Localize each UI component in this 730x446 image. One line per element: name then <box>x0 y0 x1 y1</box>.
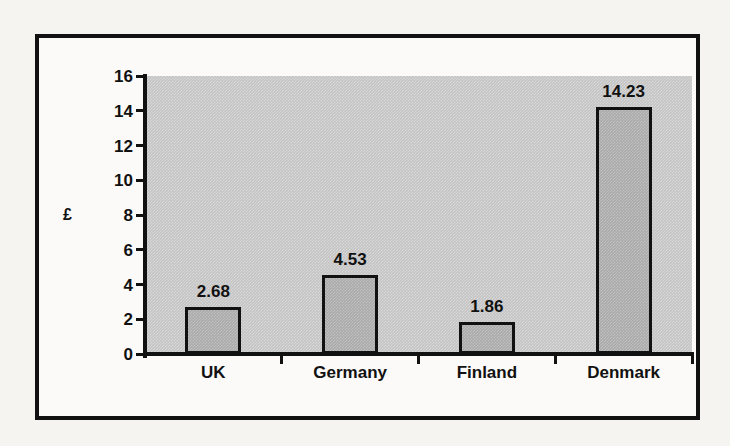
y-axis-tick-label: 6 <box>93 242 133 259</box>
x-axis-tick <box>691 355 694 364</box>
category-label-uk: UK <box>143 364 283 381</box>
bar-texture <box>462 325 512 351</box>
value-label-finland: 1.86 <box>437 298 537 315</box>
y-axis-tick-label: 12 <box>93 138 133 155</box>
value-label-germany: 4.53 <box>300 251 400 268</box>
bar-denmark[interactable] <box>596 107 652 354</box>
y-axis-tick-label: 10 <box>93 172 133 189</box>
y-axis-tick <box>136 318 144 321</box>
category-label-finland: Finland <box>417 364 557 381</box>
category-label-denmark: Denmark <box>554 364 694 381</box>
y-axis-tick <box>136 283 144 286</box>
x-axis-tick <box>280 355 283 364</box>
value-label-denmark: 14.23 <box>574 83 674 100</box>
bar-germany[interactable] <box>322 275 378 354</box>
y-axis-tick-label: 16 <box>93 68 133 85</box>
y-axis-tick <box>136 144 144 147</box>
y-axis-tick-label: 14 <box>93 103 133 120</box>
bar-texture <box>599 110 649 351</box>
bar-texture <box>325 278 375 351</box>
x-axis-tick <box>417 355 420 364</box>
y-axis-tick <box>136 214 144 217</box>
y-axis-title: £ <box>63 207 72 223</box>
bar-texture <box>188 310 238 351</box>
x-axis-tick <box>554 355 557 364</box>
y-axis-tick <box>136 75 144 78</box>
y-axis-tick <box>136 109 144 112</box>
bar-uk[interactable] <box>185 307 241 354</box>
y-axis-tick <box>136 353 144 356</box>
y-axis-tick <box>136 179 144 182</box>
y-axis-tick-label: 8 <box>93 207 133 224</box>
chart-figure-frame: 1614121086420 £ 2.684.531.8614.23 UKGerm… <box>35 34 700 420</box>
value-label-uk: 2.68 <box>163 283 263 300</box>
bar-finland[interactable] <box>459 322 515 354</box>
y-axis-tick-label: 4 <box>93 277 133 294</box>
category-label-germany: Germany <box>280 364 420 381</box>
y-axis-tick-label: 2 <box>93 311 133 328</box>
y-axis-tick-label: 0 <box>93 346 133 363</box>
y-axis-tick <box>136 248 144 251</box>
